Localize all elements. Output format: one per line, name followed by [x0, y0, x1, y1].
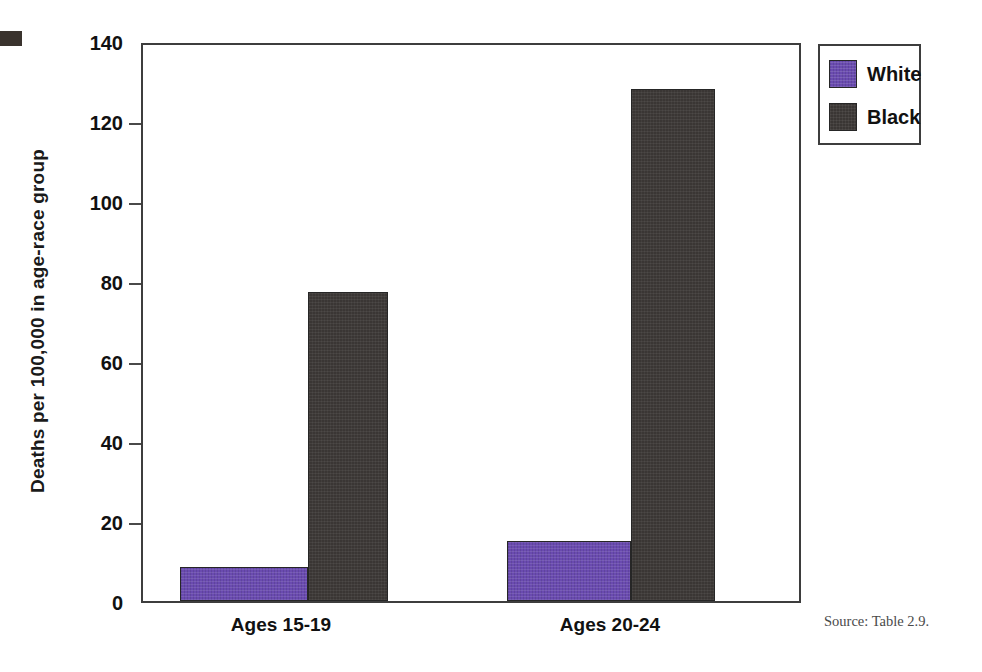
- y-axis-tick-label: 20: [53, 512, 123, 535]
- y-axis-tick-label: 120: [53, 112, 123, 135]
- legend-swatch-black: [829, 103, 857, 131]
- y-axis-tick-label: 80: [53, 272, 123, 295]
- legend-item-black: Black: [829, 103, 920, 131]
- chart-page: Deaths per 100,000 in age-race group 020…: [0, 0, 982, 672]
- y-axis-tick: [129, 283, 141, 285]
- x-axis-category-label: Ages 20-24: [560, 614, 660, 636]
- y-axis-tick-label: 140: [53, 32, 123, 55]
- source-note: Source: Table 2.9.: [824, 613, 929, 630]
- y-axis-tick-label: 60: [53, 352, 123, 375]
- y-axis-title: Deaths per 100,000 in age-race group: [27, 61, 49, 581]
- plot-area: [141, 43, 801, 603]
- y-axis-tick: [129, 203, 141, 205]
- bar-black-1: [631, 89, 715, 601]
- legend-label: White: [867, 63, 921, 86]
- y-axis-tick: [129, 523, 141, 525]
- bar-white-1: [507, 541, 631, 601]
- plot-inner: [143, 45, 799, 601]
- legend-swatch-white: [829, 60, 857, 88]
- y-axis-tick-label: 0: [53, 592, 123, 615]
- bar-white-0: [180, 567, 308, 601]
- page-edge-mark: [0, 31, 22, 46]
- chart-legend: WhiteBlack: [818, 44, 921, 145]
- legend-item-white: White: [829, 60, 921, 88]
- y-axis-tick: [129, 123, 141, 125]
- bar-black-0: [308, 292, 388, 601]
- legend-label: Black: [867, 106, 920, 129]
- y-axis-tick-label: 100: [53, 192, 123, 215]
- y-axis-tick: [129, 443, 141, 445]
- y-axis-tick: [129, 363, 141, 365]
- x-axis-category-label: Ages 15-19: [231, 614, 331, 636]
- y-axis-tick-label: 40: [53, 432, 123, 455]
